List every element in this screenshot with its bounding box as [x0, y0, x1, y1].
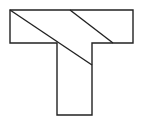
t-shape-outline [10, 10, 133, 115]
t-shape-diagram [0, 0, 145, 123]
